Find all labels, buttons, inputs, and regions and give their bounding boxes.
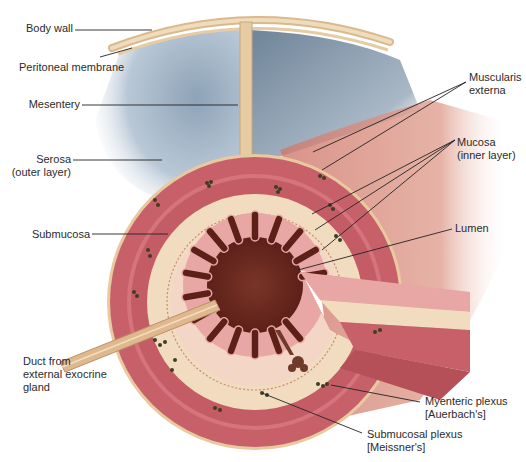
label-myenteric-plexus: Myenteric plexus [Auerbach's] bbox=[425, 395, 508, 421]
label-peritoneal-membrane: Peritoneal membrane bbox=[19, 61, 124, 74]
gi-wall-diagram: Body wall Peritoneal membrane Mesentery … bbox=[0, 0, 526, 462]
label-serosa: Serosa (outer layer) bbox=[0, 153, 71, 179]
label-body-wall: Body wall bbox=[0, 22, 73, 35]
label-mucosa: Mucosa (inner layer) bbox=[457, 136, 516, 162]
label-muscularis-externa: Muscularis externa bbox=[469, 71, 522, 97]
label-exocrine-duct: Duct from external exocrine gland bbox=[23, 355, 107, 394]
label-submucosal-plexus: Submucosal plexus [Meissner's] bbox=[367, 428, 462, 454]
label-lumen: Lumen bbox=[455, 222, 489, 235]
label-mesentery: Mesentery bbox=[0, 98, 80, 111]
label-submucosa: Submucosa bbox=[0, 228, 90, 241]
